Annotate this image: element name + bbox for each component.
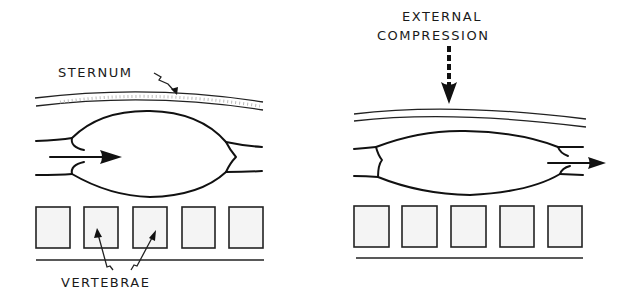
- vertebra: [36, 207, 70, 248]
- vertebra: [402, 206, 437, 247]
- outflow-arrow-head: [588, 157, 606, 169]
- external-compression-label-line1: EXTERNAL: [402, 9, 482, 24]
- inflow-arrow-head: [100, 150, 122, 164]
- vertebra: [548, 206, 582, 247]
- vertebra: [84, 207, 118, 248]
- compression-arrow-head: [441, 82, 457, 104]
- vertebrae-right: [354, 206, 582, 247]
- cardiac-compression-diagram: STERNUM: [0, 0, 622, 302]
- vertebra: [451, 206, 486, 247]
- heart-relaxed: [36, 111, 262, 197]
- heart-compressed: [354, 131, 606, 195]
- left-panel: STERNUM: [35, 65, 264, 290]
- vertebrae-label: VERTEBRAE: [61, 275, 150, 290]
- vertebra: [229, 207, 263, 248]
- right-panel: EXTERNAL COMPRESSION: [354, 9, 606, 258]
- vertebra: [354, 206, 389, 247]
- sternum-label: STERNUM: [58, 65, 132, 80]
- sternum-compressed: [354, 109, 586, 127]
- external-compression-label-line2: COMPRESSION: [377, 28, 489, 43]
- sternum: [35, 92, 263, 110]
- vertebra: [182, 207, 215, 248]
- vertebra: [500, 206, 534, 247]
